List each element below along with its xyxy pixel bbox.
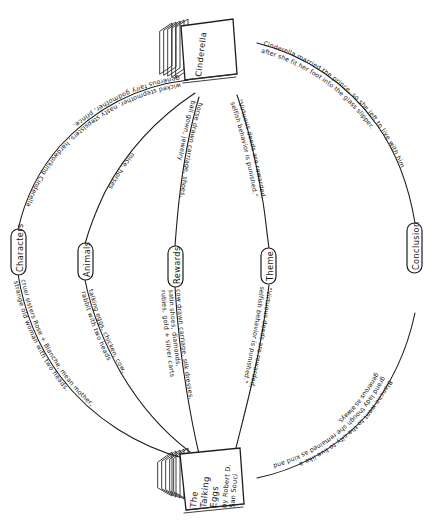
branch-label-rewards-top: horse drawn carriage, shoes, ball gown, …: [176, 100, 204, 198]
book-talking-eggs: The Talking Eggs by Robert D. San Souci: [158, 448, 244, 513]
branch-label-animals-bottom: talking eggs, chicken, cow, rabbit with …: [80, 288, 128, 374]
branch-label-characters-top: wicked stepmother, nasty stepsisters, ha…: [25, 74, 181, 208]
book-cinderella: Cinderella: [160, 19, 237, 83]
conc-top-line2: after she fit her foot into the glass sl…: [261, 47, 376, 130]
mindmap-canvas: Cinderella The Talking Eggs by Robert D.…: [0, 0, 443, 532]
branch-label-conclusion-bottom: Blanche went to the city to live like a …: [272, 372, 394, 471]
node-characters-label: Characters: [15, 223, 25, 272]
node-animals-label: Animals: [82, 242, 92, 277]
char-top-line1: wicked stepmother, nasty stepsisters, ha…: [25, 82, 181, 208]
svg-text:wicked stepmother, nasty steps: wicked stepmother, nasty stepsisters, ha…: [25, 82, 181, 208]
node-animals[interactable]: Animals: [78, 242, 93, 280]
node-theme[interactable]: Theme: [261, 248, 276, 284]
svg-text:after she fit her foot into th: after she fit her foot into the glass sl…: [261, 47, 376, 130]
node-rewards-label: Rewards: [172, 246, 182, 284]
node-theme-label: Theme: [265, 251, 275, 282]
branch-label-theme-top: "Virtuous deeds are rewarded, selfish be…: [229, 98, 267, 199]
branch-label-rewards-bottom: cow drawn carriage, silk dresses, satin …: [160, 289, 195, 400]
anim-top-line1: mice, horses: [107, 152, 136, 191]
svg-text:mice, horses: mice, horses: [107, 152, 136, 191]
branch-label-animals-top: mice, horses: [107, 152, 136, 191]
branch-label-conclusion-top: Cinderella married the prince, so she le…: [261, 40, 407, 169]
branch-label-theme-bottom: "Virtuous deeds are rewarded, selfish be…: [242, 286, 273, 389]
node-conclusion-label: Conclusion: [411, 221, 421, 270]
node-characters[interactable]: Characters: [11, 223, 26, 275]
node-rewards[interactable]: Rewards: [168, 246, 183, 287]
node-conclusion[interactable]: Conclusion: [407, 221, 422, 273]
mindmap-svg: Cinderella The Talking Eggs by Robert D.…: [0, 0, 443, 532]
